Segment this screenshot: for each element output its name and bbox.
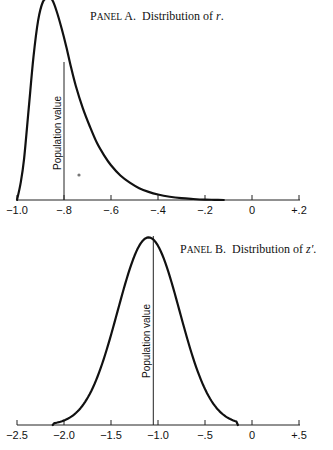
panel-a-title-text: Distribution of: [142, 9, 216, 23]
panel-b-title-suffix: .: [313, 242, 316, 256]
print-speck: [77, 173, 80, 176]
panel-a-x-tick-label: +.2: [291, 204, 307, 216]
title-small-caps: ANEL: [187, 245, 213, 255]
panel-b-x-tick-label: −1.0: [147, 429, 169, 441]
panel-a-title-prefix: PANEL: [90, 9, 122, 23]
panel-b-x-tick-label: −2.0: [53, 429, 75, 441]
panel-b-x-tick-label: −.5: [197, 429, 213, 441]
chart-canvas: PANEL A. Distribution of r. −1.0−.8−.6−.…: [0, 0, 333, 450]
panel-b-x-tick-label: 0: [249, 429, 255, 441]
panel-a-title-suffix: .: [221, 9, 224, 23]
panel-a-x-tick-label: −.2: [197, 204, 213, 216]
panel-a-x-tick-label: 0: [249, 204, 255, 216]
panel-a: PANEL A. Distribution of r. −1.0−.8−.6−.…: [6, 0, 307, 216]
panel-a-x-tick-label: −.4: [150, 204, 166, 216]
panel-b-title: PANEL B. Distribution of z′.: [180, 242, 316, 256]
panel-b-title-prefix: PANEL: [180, 242, 212, 256]
panel-a-title: PANEL A. Distribution of r.: [90, 9, 224, 23]
panel-b: PANEL B. Distribution of z′. −2.5−2.0−1.…: [6, 236, 316, 441]
panel-a-population-label: Population value: [52, 96, 63, 170]
panel-a-x-tick-label: −.8: [56, 204, 72, 216]
title-small-caps: ANEL: [97, 12, 123, 22]
panel-b-x-tick-label: −1.5: [100, 429, 122, 441]
panel-a-x-tick-label: −.6: [103, 204, 119, 216]
panel-b-x-tick-label: +.5: [291, 429, 307, 441]
panel-b-title-text: Distribution of: [232, 242, 306, 256]
panel-a-distribution-curve: [17, 0, 224, 200]
panel-a-x-tick-label: −1.0: [6, 204, 28, 216]
panel-b-population-label: Population value: [141, 304, 152, 378]
panel-b-title-prefix-rest: B.: [212, 242, 226, 256]
panel-b-x-tick-label: −2.5: [6, 429, 28, 441]
panel-a-title-prefix-rest: A.: [122, 9, 136, 23]
